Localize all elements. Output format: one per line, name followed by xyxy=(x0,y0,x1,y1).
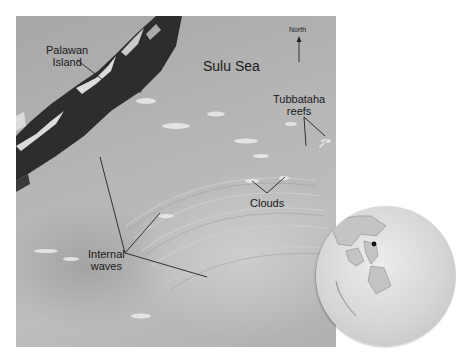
clouds-label: Clouds xyxy=(250,197,284,209)
globe-inset-icon xyxy=(316,206,456,346)
internal-waves-label: Internal waves xyxy=(88,248,125,272)
north-label: North xyxy=(289,26,306,34)
tubbataha-reefs-label: Tubbataha reefs xyxy=(273,93,325,117)
internal-waves-leader-line-1 xyxy=(100,157,125,253)
internal-waves-label-line2: waves xyxy=(88,260,125,272)
internal-waves-leader-line-2 xyxy=(125,213,160,253)
palawan-island-label: Palawan Island xyxy=(46,44,88,68)
palawan-label-line2: Island xyxy=(46,56,88,68)
clouds-leader-line-2 xyxy=(267,177,285,193)
internal-waves-leader-line-3 xyxy=(125,253,207,277)
clouds-leader-line-1 xyxy=(252,181,267,193)
north-arrow-icon xyxy=(297,36,302,42)
tubbataha-leader-line-2 xyxy=(304,117,325,136)
location-marker xyxy=(372,242,377,247)
globe-landmasses xyxy=(316,206,456,346)
satellite-photo: Palawan Island Sulu Sea North Tubbataha … xyxy=(16,16,336,347)
tubbataha-leader-line-1 xyxy=(304,117,306,146)
tubbataha-label-line1: Tubbataha xyxy=(273,93,325,105)
internal-waves-label-line1: Internal xyxy=(88,248,125,260)
tubbataha-label-line2: reefs xyxy=(273,105,325,117)
palawan-label-line1: Palawan xyxy=(46,44,88,56)
sulu-sea-label: Sulu Sea xyxy=(203,58,260,74)
